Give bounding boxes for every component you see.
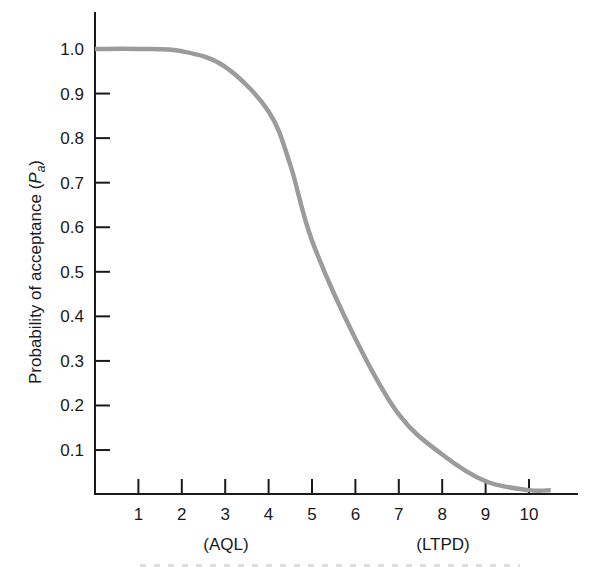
x-tick-label: 2	[177, 505, 186, 524]
x-tick-label: 4	[264, 505, 273, 524]
oc-curve-line	[95, 49, 551, 491]
x-tick-label: 1	[134, 505, 143, 524]
y-axis-ticks: 0.10.20.30.40.50.60.70.80.91.0	[60, 40, 110, 460]
x-tick-label: 9	[481, 505, 490, 524]
aql-annotation: (AQL)	[203, 535, 248, 554]
cropped-caption	[140, 560, 520, 567]
x-tick-label: 5	[307, 505, 316, 524]
y-tick-label: 0.3	[60, 352, 84, 371]
y-axis-title: Probability of acceptance (Pa)	[26, 160, 48, 384]
y-tick-label: 0.4	[60, 307, 84, 326]
y-tick-label: 0.8	[60, 129, 84, 148]
x-tick-label: 7	[394, 505, 403, 524]
x-tick-label: 8	[437, 505, 446, 524]
y-tick-label: 0.1	[60, 441, 84, 460]
oc-curve-chart: 0.10.20.30.40.50.60.70.80.91.0 123456789…	[0, 0, 589, 567]
x-tick-label: 6	[351, 505, 360, 524]
y-tick-label: 0.6	[60, 218, 84, 237]
x-tick-label: 10	[520, 505, 539, 524]
y-tick-label: 0.9	[60, 85, 84, 104]
ltpd-annotation: (LTPD)	[416, 535, 470, 554]
y-tick-label: 0.5	[60, 263, 84, 282]
y-tick-label: 1.0	[60, 40, 84, 59]
x-axis-ticks: 12345678910	[134, 479, 539, 524]
y-tick-label: 0.2	[60, 396, 84, 415]
y-tick-label: 0.7	[60, 174, 84, 193]
x-tick-label: 3	[220, 505, 229, 524]
